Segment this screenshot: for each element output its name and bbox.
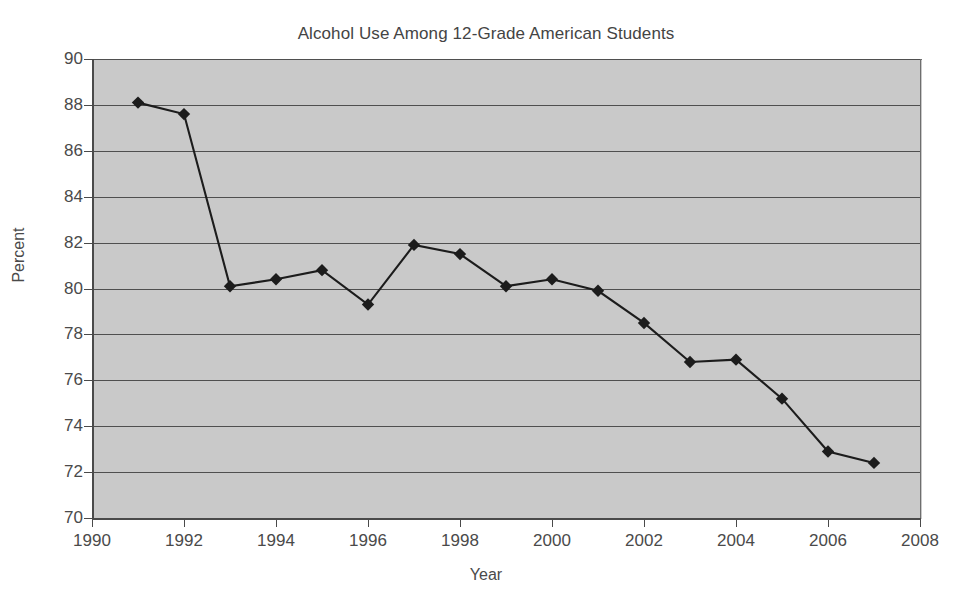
y-tick-label-74: 74 [64, 416, 83, 436]
y-tick-label-86: 86 [64, 141, 83, 161]
gridline-y-88 [92, 105, 920, 106]
x-tick-1998 [460, 518, 461, 527]
x-tick-label-1998: 1998 [441, 531, 479, 551]
y-tick-label-76: 76 [64, 370, 83, 390]
x-tick-1994 [276, 518, 277, 527]
y-tick-label-70: 70 [64, 508, 83, 528]
y-tick-label-80: 80 [64, 279, 83, 299]
x-tick-label-2002: 2002 [625, 531, 663, 551]
x-tick-1990 [92, 518, 93, 527]
x-tick-2004 [736, 518, 737, 527]
y-tick-86 [84, 151, 94, 152]
y-tick-label-84: 84 [64, 187, 83, 207]
gridline-y-84 [92, 197, 920, 198]
gridline-y-76 [92, 380, 920, 381]
y-tick-84 [84, 197, 94, 198]
x-tick-label-2004: 2004 [717, 531, 755, 551]
y-tick-74 [84, 426, 94, 427]
y-tick-82 [84, 243, 94, 244]
x-axis-line [92, 518, 921, 520]
gridline-y-74 [92, 426, 920, 427]
y-tick-label-82: 82 [64, 233, 83, 253]
y-tick-78 [84, 334, 94, 335]
x-tick-1992 [184, 518, 185, 527]
y-tick-label-72: 72 [64, 462, 83, 482]
x-tick-2002 [644, 518, 645, 527]
x-tick-label-1996: 1996 [349, 531, 387, 551]
y-axis-title: Percent [10, 227, 28, 282]
gridlines-group [92, 59, 920, 518]
x-tick-2000 [552, 518, 553, 527]
x-tick-label-2000: 2000 [533, 531, 571, 551]
gridline-y-90 [92, 59, 920, 60]
y-tick-88 [84, 105, 94, 106]
x-axis-title: Year [0, 566, 972, 584]
gridline-y-80 [92, 289, 920, 290]
y-tick-90 [84, 59, 94, 60]
gridline-y-72 [92, 472, 920, 473]
gridline-y-82 [92, 243, 920, 244]
chart-figure: Alcohol Use Among 12-Grade American Stud… [0, 0, 972, 609]
x-tick-2008 [920, 518, 921, 527]
x-tick-1996 [368, 518, 369, 527]
x-tick-2006 [828, 518, 829, 527]
chart-title: Alcohol Use Among 12-Grade American Stud… [0, 24, 972, 44]
y-tick-label-78: 78 [64, 324, 83, 344]
y-tick-76 [84, 380, 94, 381]
x-tick-label-1994: 1994 [257, 531, 295, 551]
x-tick-label-1992: 1992 [165, 531, 203, 551]
y-tick-label-88: 88 [64, 95, 83, 115]
x-tick-label-1990: 1990 [73, 531, 111, 551]
y-tick-80 [84, 289, 94, 290]
gridline-y-78 [92, 334, 920, 335]
x-tick-label-2008: 2008 [901, 531, 939, 551]
x-tick-label-2006: 2006 [809, 531, 847, 551]
gridline-y-86 [92, 151, 920, 152]
y-tick-label-90: 90 [64, 49, 83, 69]
plot-right-border [920, 59, 921, 519]
y-tick-72 [84, 472, 94, 473]
